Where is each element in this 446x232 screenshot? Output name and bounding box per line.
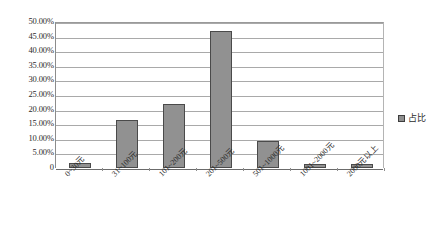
- y-axis-tick-label: 15.00%: [0, 119, 54, 128]
- x-axis-tick: [290, 168, 291, 171]
- y-axis-tick-label: 0: [0, 163, 54, 172]
- x-axis-tick: [243, 168, 244, 171]
- y-axis-tick-label: 20.00%: [0, 105, 54, 114]
- legend-label: 占比: [408, 114, 426, 123]
- bar-chart: 50.00%45.00%40.00%35.00%30.00%25.00%20.0…: [0, 0, 446, 232]
- chart-legend: 占比: [398, 114, 426, 123]
- y-axis-tick-label: 35.00%: [0, 61, 54, 70]
- y-axis-tick-label: 45.00%: [0, 32, 54, 41]
- y-axis-tick-label: 40.00%: [0, 46, 54, 55]
- gridline: [56, 23, 383, 24]
- x-axis-tick: [196, 168, 197, 171]
- y-axis-tick-label: 25.00%: [0, 90, 54, 99]
- y-axis-tick-label: 50.00%: [0, 17, 54, 26]
- y-axis-tick-label: 5.00%: [0, 148, 54, 157]
- x-axis-tick: [149, 168, 150, 171]
- legend-swatch-icon: [398, 115, 405, 122]
- y-axis-tick-label: 30.00%: [0, 75, 54, 84]
- x-axis-tick: [102, 168, 103, 171]
- y-axis-tick-label: 10.00%: [0, 134, 54, 143]
- x-axis-tick: [337, 168, 338, 171]
- x-axis-tick: [384, 168, 385, 171]
